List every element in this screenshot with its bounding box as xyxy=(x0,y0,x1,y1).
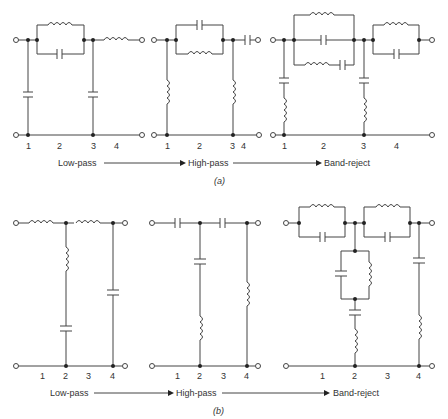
a-bandreject-node-2: 2 xyxy=(321,141,326,151)
a-lowpass-node-3: 3 xyxy=(91,141,96,151)
a-highpass-circuit xyxy=(157,20,257,135)
a-lowpass-node-4: 4 xyxy=(114,141,119,151)
b-flow-highpass: High-pass xyxy=(176,388,217,398)
b-highpass-node-3: 3 xyxy=(221,371,226,381)
a-flow-lowpass: Low-pass xyxy=(58,158,97,168)
figure-a-caption: (a) xyxy=(214,176,225,186)
arrow-head-icon xyxy=(316,160,322,166)
a-bandreject-circuit xyxy=(275,13,430,136)
b-flow-bandreject: Band-reject xyxy=(333,388,380,398)
a-bandreject-nodes xyxy=(271,38,435,138)
a-lowpass-node-1: 1 xyxy=(26,141,31,151)
b-bandreject-nodes xyxy=(284,221,435,369)
a-flow-bandreject: Band-reject xyxy=(324,158,371,168)
b-lowpass-node-4: 4 xyxy=(110,371,115,381)
arrow-head-icon xyxy=(168,390,174,396)
a-lowpass-node-2: 2 xyxy=(57,141,62,151)
a-highpass-node-2: 2 xyxy=(197,141,202,151)
b-bandreject-circuit xyxy=(289,205,429,367)
arrow-head-icon xyxy=(324,390,330,396)
b-highpass-node-4: 4 xyxy=(244,371,249,381)
a-highpass-node-4: 4 xyxy=(241,141,246,151)
b-highpass-nodes xyxy=(150,221,261,369)
a-highpass-node-1: 1 xyxy=(165,141,170,151)
b-lowpass-node-2: 2 xyxy=(63,371,68,381)
b-bandreject-node-3: 3 xyxy=(385,371,390,381)
a-highpass-node-3: 3 xyxy=(230,141,235,151)
arrow-head-icon xyxy=(180,160,186,166)
b-highpass-node-2: 2 xyxy=(197,371,202,381)
filter-transformation-diagram: 1 2 3 4 xyxy=(0,0,448,419)
b-lowpass-node-3: 3 xyxy=(86,371,91,381)
b-flow-lowpass: Low-pass xyxy=(50,388,89,398)
b-bandreject-node-2: 2 xyxy=(352,371,357,381)
a-lowpass-nodes xyxy=(14,38,145,138)
b-highpass-circuit xyxy=(155,218,255,366)
a-bandreject-node-4: 4 xyxy=(394,141,399,151)
b-bandreject-node-4: 4 xyxy=(416,371,421,381)
b-bandreject-node-1: 1 xyxy=(320,371,325,381)
b-lowpass-node-1: 1 xyxy=(40,371,45,381)
b-highpass-node-1: 1 xyxy=(175,371,180,381)
a-bandreject-node-3: 3 xyxy=(361,141,366,151)
figure-b-caption: (b) xyxy=(213,406,224,416)
b-lowpass-circuit xyxy=(18,221,122,367)
figure-a: 1 2 3 4 xyxy=(14,13,435,187)
a-bandreject-node-1: 1 xyxy=(282,141,287,151)
figure-b: 1 2 3 4 xyxy=(14,205,435,417)
a-flow-highpass: High-pass xyxy=(188,158,229,168)
